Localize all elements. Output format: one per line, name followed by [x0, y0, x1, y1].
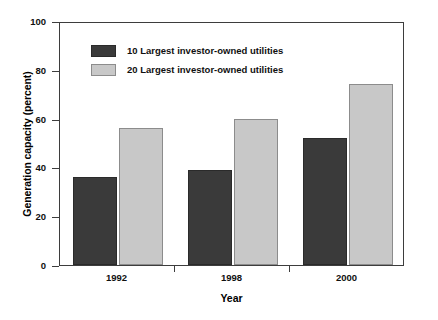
plot-area: 10 Largest investor-owned utilities20 La… — [59, 22, 404, 266]
y-axis-tick-label: 40 — [0, 162, 46, 173]
y-axis-tick — [52, 266, 59, 267]
chart-legend: 10 Largest investor-owned utilities20 La… — [91, 41, 283, 79]
legend-swatch-series2 — [91, 64, 116, 76]
legend-label: 10 Largest investor-owned utilities — [127, 45, 283, 56]
y-axis-tick-label: 100 — [0, 16, 46, 27]
y-axis-tick — [52, 22, 59, 23]
bar-chart-figure: Generation capacity (percent) 0204060801… — [0, 0, 438, 320]
bar-1998-series2 — [234, 119, 278, 265]
x-axis-title: Year — [59, 292, 404, 304]
bar-1992-series2 — [119, 128, 163, 265]
y-axis-tick — [52, 168, 59, 169]
legend-label: 20 Largest investor-owned utilities — [127, 64, 283, 75]
bar-2000-series1 — [303, 138, 347, 265]
bar-1992-series1 — [73, 177, 117, 265]
legend-swatch-series1 — [91, 45, 116, 57]
legend-item: 10 Largest investor-owned utilities — [91, 41, 283, 60]
y-axis-tick-label: 60 — [0, 114, 46, 125]
bar-1998-series1 — [188, 170, 232, 265]
bar-2000-series2 — [349, 84, 393, 265]
y-axis-title: Generation capacity (percent) — [18, 22, 36, 266]
y-axis-tick — [52, 217, 59, 218]
y-axis-tick-label: 20 — [0, 211, 46, 222]
legend-item: 20 Largest investor-owned utilities — [91, 60, 283, 79]
x-axis-tick-label: 2000 — [307, 272, 387, 283]
x-axis-tick-label: 1998 — [192, 272, 272, 283]
y-axis-tick-label: 80 — [0, 65, 46, 76]
x-axis-tick-label: 1992 — [77, 272, 157, 283]
x-axis-tick — [174, 266, 175, 272]
y-axis-tick-label: 0 — [0, 260, 46, 271]
y-axis-tick — [52, 120, 59, 121]
y-axis-tick — [52, 71, 59, 72]
x-axis-tick — [289, 266, 290, 272]
